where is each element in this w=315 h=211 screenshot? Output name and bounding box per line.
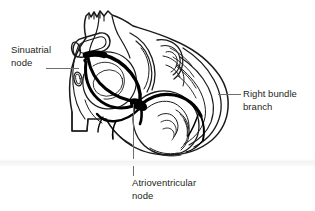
label-right-bundle-line2: branch xyxy=(243,101,297,114)
figure-canvas: Sinuatrial node Right bundle branch Atri… xyxy=(0,0,315,211)
label-right-bundle-line1: Right bundle xyxy=(243,88,297,101)
label-sinuatrial-line1: Sinuatrial xyxy=(11,44,51,57)
label-av-line2: node xyxy=(132,190,196,203)
sinuatrial-node-marker xyxy=(86,54,104,56)
label-sinuatrial-line2: node xyxy=(11,57,51,70)
label-av-line1: Atrioventricular xyxy=(132,177,196,190)
label-atrioventricular-node: Atrioventricular node xyxy=(132,177,196,202)
label-sinuatrial-node: Sinuatrial node xyxy=(11,44,51,69)
label-right-bundle-branch: Right bundle branch xyxy=(243,88,297,113)
